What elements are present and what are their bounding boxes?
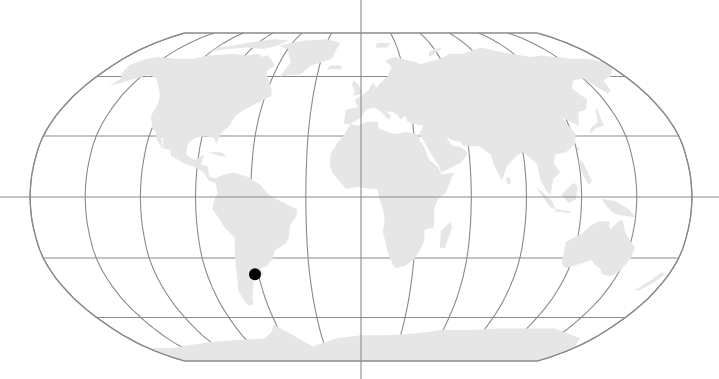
land-australia bbox=[562, 219, 635, 276]
land-greenland bbox=[278, 39, 340, 76]
land-taiwan bbox=[577, 146, 580, 152]
land-indonesia-borneo bbox=[561, 183, 577, 203]
land-novaya-zemlya bbox=[429, 47, 443, 57]
land-sumatra bbox=[535, 187, 555, 209]
land-south-america bbox=[212, 173, 297, 307]
land-svalbard bbox=[375, 43, 390, 48]
land-north-america bbox=[109, 54, 271, 183]
location-marker[interactable] bbox=[249, 268, 261, 280]
land-java bbox=[555, 209, 570, 213]
land-iceland bbox=[327, 66, 342, 70]
world-map bbox=[0, 0, 719, 379]
axes bbox=[0, 0, 719, 379]
land-new-zealand bbox=[635, 272, 666, 290]
land-cuba bbox=[208, 152, 227, 156]
land-madagascar bbox=[440, 221, 452, 247]
land-sri-lanka bbox=[506, 177, 512, 185]
land-new-guinea bbox=[602, 199, 636, 217]
land-antarctica bbox=[149, 325, 581, 361]
land-japan bbox=[590, 108, 604, 134]
